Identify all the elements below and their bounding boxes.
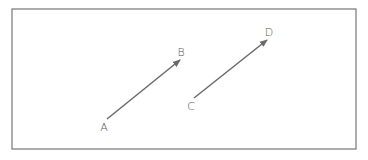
vector-diagram: A B C D bbox=[0, 0, 368, 160]
vector-cd-arrow bbox=[194, 40, 267, 98]
point-label-d: D bbox=[265, 26, 273, 39]
point-label-c: C bbox=[187, 100, 195, 113]
diagram-frame bbox=[12, 9, 356, 149]
point-label-b: B bbox=[177, 46, 184, 59]
vector-ab-arrow bbox=[107, 60, 180, 119]
point-label-a: A bbox=[100, 121, 108, 134]
